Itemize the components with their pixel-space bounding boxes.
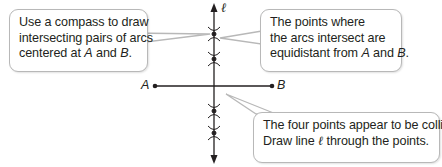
text: equidistant from <box>270 46 361 60</box>
text: . <box>406 46 409 60</box>
callout-bottom-line1: The four points appear to be collinear. <box>263 118 430 134</box>
callout-bottom-line2: Draw line ℓ through the points. <box>263 134 430 150</box>
line-l-arrow-up-icon <box>211 3 218 12</box>
text: and <box>93 46 121 60</box>
text: centered at <box>19 46 84 60</box>
bottom-callout-pointer <box>226 94 276 114</box>
text: through the points. <box>323 134 429 148</box>
callout-right-line3: equidistant from A and B. <box>270 46 392 62</box>
callout-left-line1: Use a compass to draw <box>19 15 138 31</box>
callout-right-line1: The points where <box>270 15 392 31</box>
callout-equidistant-points: The points where the arcs intersect are … <box>260 9 402 72</box>
point-a-label: A <box>141 78 149 92</box>
point-b-dot <box>270 84 275 89</box>
line-l-label: ℓ <box>221 0 226 16</box>
point-a-ref: A <box>84 46 92 60</box>
point-a-ref: A <box>361 46 369 60</box>
callout-compass-instructions: Use a compass to draw intersecting pairs… <box>9 9 148 72</box>
callout-right-line2: the arcs intersect are <box>270 31 392 47</box>
callout-collinear-points: The four points appear to be collinear. … <box>253 112 440 163</box>
text: and <box>370 46 398 60</box>
point-b-label: B <box>277 78 285 92</box>
text: . <box>128 46 131 60</box>
point-a-dot <box>153 84 158 89</box>
callout-left-line3: centered at A and B. <box>19 46 138 62</box>
point-b-ref: B <box>397 46 405 60</box>
text: Draw line <box>263 134 318 148</box>
callout-left-line2: intersecting pairs of arcs <box>19 31 138 47</box>
line-l-arrow-down-icon <box>211 155 218 164</box>
